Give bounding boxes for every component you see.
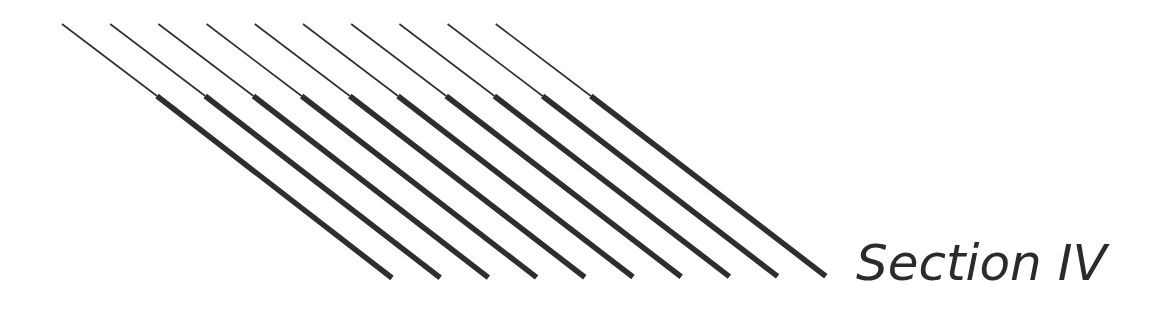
section-title: Section IV (856, 234, 1107, 292)
diagonal-line (351, 24, 681, 277)
diagonal-line (303, 24, 633, 277)
diagonal-line (158, 24, 488, 278)
diagonal-line (207, 24, 537, 277)
diagonal-line (448, 24, 778, 276)
diagonal-line (255, 24, 585, 277)
diagonal-line (399, 24, 729, 277)
diagonal-line (110, 24, 440, 278)
diagonal-line (62, 24, 392, 278)
diagonal-line (496, 24, 826, 276)
